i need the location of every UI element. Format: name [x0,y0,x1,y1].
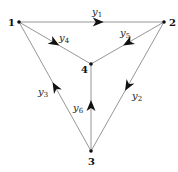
flow-network-diagram: y1y2y3y4y5y61234 [0,0,178,172]
edge-label-y5: y5 [119,27,130,40]
edge-label-y2: y2 [131,90,142,103]
arrow-y3-icon [49,80,62,94]
edge-label-y6: y6 [72,102,84,115]
node-2 [162,20,166,24]
node-label-3: 3 [88,156,95,167]
node-label-1: 1 [8,17,15,28]
edge-label-y3: y3 [37,86,48,99]
edge-label-y4: y4 [58,32,70,45]
node-3 [89,149,93,153]
edge-label-y1: y1 [91,6,102,19]
node-1 [17,20,21,24]
node-label-4: 4 [81,64,88,75]
node-label-2: 2 [169,17,176,28]
node-4 [89,62,93,66]
